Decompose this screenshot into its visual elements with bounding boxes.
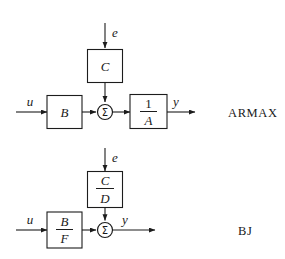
armax-output-block-numerator: 1 <box>145 96 152 111</box>
figure-canvas: e C u B Σ 1 A y <box>0 0 285 259</box>
bj-input-label: u <box>27 212 34 227</box>
bj-noise-block-denominator: D <box>99 191 110 206</box>
bj-model-label: BJ <box>238 224 252 238</box>
bj-noise-block-numerator: C <box>101 173 110 188</box>
armax-sigma-glyph: Σ <box>102 107 108 118</box>
block-diagram-figure: e C u B Σ 1 A y <box>0 0 285 259</box>
armax-output-block-denominator: A <box>144 113 153 128</box>
bj-output-label: y <box>120 212 128 227</box>
bj-input-block-numerator: B <box>61 214 69 229</box>
armax-output-label: y <box>171 94 179 109</box>
armax-diagram: e C u B Σ 1 A y <box>16 23 278 129</box>
armax-noise-label: e <box>112 25 118 40</box>
bj-input-block-denominator: F <box>60 231 70 246</box>
bj-noise-label: e <box>112 150 118 165</box>
armax-input-label: u <box>27 94 34 109</box>
armax-input-block-label: B <box>61 105 69 120</box>
armax-noise-block-label: C <box>101 59 110 74</box>
bj-diagram: e C D u B F Σ y BJ <box>16 148 252 248</box>
armax-model-label: ARMAX <box>228 106 278 120</box>
bj-sigma-glyph: Σ <box>102 225 108 236</box>
